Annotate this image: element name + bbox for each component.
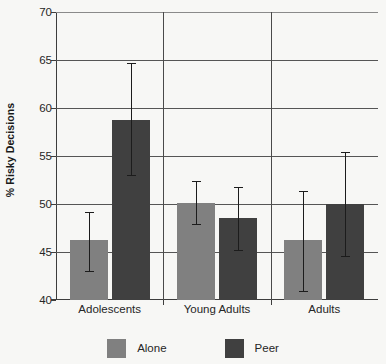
y-tick-label-45: 45 bbox=[24, 246, 52, 258]
error-bar-cap-lower bbox=[299, 291, 308, 292]
error-bar-cap-upper bbox=[127, 63, 136, 64]
y-tick-label-70: 70 bbox=[24, 6, 52, 18]
error-bar-cap-lower bbox=[127, 175, 136, 176]
group-separator-1 bbox=[163, 12, 164, 300]
legend-item-alone[interactable]: Alone bbox=[107, 339, 166, 358]
y-tick-mark-40 bbox=[51, 300, 56, 301]
chart-legend: AlonePeer bbox=[0, 336, 386, 360]
x-tick-label-adults: Adults bbox=[308, 303, 340, 315]
error-bar-cap-upper bbox=[192, 181, 201, 182]
y-tick-label-40: 40 bbox=[24, 294, 52, 306]
y-axis-title: % Risky Decisions bbox=[0, 0, 20, 300]
error-bar-line bbox=[303, 191, 304, 292]
error-bar-cap-upper bbox=[85, 212, 94, 213]
y-axis-title-text: % Risky Decisions bbox=[4, 103, 16, 198]
gridline-60 bbox=[56, 108, 378, 109]
x-tick-label-adolescents: Adolescents bbox=[78, 303, 141, 315]
error-bar-line bbox=[345, 152, 346, 256]
x-tick-label-young-adults: Young Adults bbox=[184, 303, 251, 315]
plot-area bbox=[56, 12, 378, 300]
error-bar-cap-upper bbox=[299, 191, 308, 192]
y-tick-label-65: 65 bbox=[24, 54, 52, 66]
legend-label-peer: Peer bbox=[255, 342, 279, 354]
error-bar-cap-lower bbox=[85, 271, 94, 272]
y-tick-label-55: 55 bbox=[24, 150, 52, 162]
error-bar-cap-upper bbox=[234, 187, 243, 188]
chart-container: % Risky Decisions 40455055606570 Adolesc… bbox=[0, 0, 386, 364]
y-tick-mark-55 bbox=[51, 156, 56, 157]
y-tick-mark-65 bbox=[51, 60, 56, 61]
gridline-70 bbox=[56, 12, 378, 13]
y-axis-tick-labels: 40455055606570 bbox=[20, 0, 52, 364]
error-bar-cap-lower bbox=[234, 250, 243, 251]
error-bar-cap-lower bbox=[341, 256, 350, 257]
error-bar-line bbox=[238, 187, 239, 250]
y-tick-label-50: 50 bbox=[24, 198, 52, 210]
gridline-55 bbox=[56, 156, 378, 157]
error-bar-cap-upper bbox=[341, 152, 350, 153]
group-separator-2 bbox=[271, 12, 272, 300]
y-tick-mark-70 bbox=[51, 12, 56, 13]
legend-item-peer[interactable]: Peer bbox=[225, 339, 279, 358]
y-tick-mark-45 bbox=[51, 252, 56, 253]
legend-swatch-peer bbox=[225, 339, 244, 358]
error-bar-cap-lower bbox=[192, 224, 201, 225]
error-bar-line bbox=[131, 63, 132, 175]
legend-label-alone: Alone bbox=[137, 342, 166, 354]
x-axis-tick-labels: AdolescentsYoung AdultsAdults bbox=[56, 303, 378, 323]
error-bar-line bbox=[196, 181, 197, 224]
y-tick-mark-60 bbox=[51, 108, 56, 109]
y-tick-mark-50 bbox=[51, 204, 56, 205]
error-bar-line bbox=[89, 212, 90, 272]
y-tick-label-60: 60 bbox=[24, 102, 52, 114]
legend-swatch-alone bbox=[107, 339, 126, 358]
gridline-65 bbox=[56, 60, 378, 61]
